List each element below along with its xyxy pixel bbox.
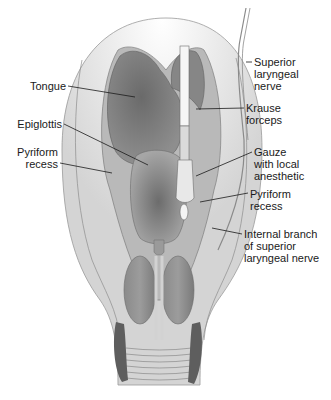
gauze — [176, 160, 194, 203]
label-krause-forceps: Krause forceps — [246, 102, 282, 126]
label-pyriform-recess-right: Pyriform recess — [250, 188, 291, 212]
label-epiglottis: Epiglottis — [6, 118, 62, 130]
label-superior-laryngeal-nerve: Superior laryngeal nerve — [254, 56, 299, 92]
vocal-cord-right — [162, 256, 194, 324]
krause-forceps — [180, 46, 189, 126]
label-tongue: Tongue — [18, 80, 66, 92]
vocal-cord-left — [124, 256, 156, 324]
epiglottis-tip — [154, 240, 164, 255]
label-gauze: Gauze with local anesthetic — [254, 146, 304, 182]
label-internal-branch: Internal branch of superior laryngeal ne… — [244, 228, 319, 264]
label-pyriform-recess-left: Pyriform recess — [12, 146, 58, 170]
gauze-tip — [180, 204, 188, 220]
